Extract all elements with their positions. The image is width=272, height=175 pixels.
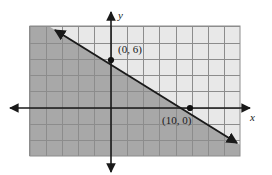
point-label-y-intercept: (0, 6) xyxy=(118,43,142,56)
y-axis-label: y xyxy=(117,9,123,21)
point-x-intercept xyxy=(187,105,193,111)
graph-svg: (0, 6) (10, 0) y x xyxy=(0,0,272,175)
x-axis-label: x xyxy=(249,111,255,123)
point-y-intercept xyxy=(108,57,114,63)
point-label-x-intercept: (10, 0) xyxy=(162,114,192,127)
graph-figure: (0, 6) (10, 0) y x xyxy=(0,0,272,175)
